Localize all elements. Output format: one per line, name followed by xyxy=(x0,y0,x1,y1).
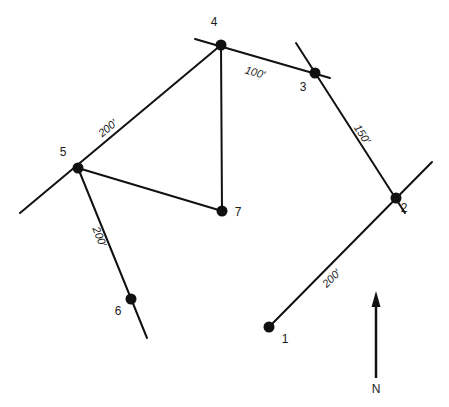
north-arrow: N xyxy=(372,291,381,396)
station-5-label: 5 xyxy=(60,145,67,159)
distance-label: 200′ xyxy=(90,224,109,249)
traverse-lines xyxy=(20,39,432,338)
line-5-4 xyxy=(20,45,221,213)
station-3-point xyxy=(310,68,321,79)
station-1-label: 1 xyxy=(282,332,289,346)
distance-label: 200′ xyxy=(319,266,343,290)
station-6-label: 6 xyxy=(115,304,122,318)
station-4-label: 4 xyxy=(211,15,218,29)
station-3-label: 3 xyxy=(300,80,307,94)
survey-diagram: 1234567 100′150′200′200′200′ N xyxy=(0,0,449,407)
station-1-point xyxy=(264,322,275,333)
arrow-up-icon xyxy=(372,291,381,307)
line-5-6 xyxy=(78,168,147,338)
station-points xyxy=(73,40,402,333)
station-7-point xyxy=(217,206,228,217)
line-4-7 xyxy=(221,45,222,211)
station-2-label: 2 xyxy=(401,201,408,215)
north-label: N xyxy=(372,382,381,396)
distance-label: 200′ xyxy=(95,116,120,140)
station-6-point xyxy=(126,294,137,305)
line-5-7 xyxy=(78,168,222,211)
distance-label: 100′ xyxy=(244,64,268,81)
station-4-point xyxy=(216,40,227,51)
station-7-label: 7 xyxy=(235,205,242,219)
station-5-point xyxy=(73,163,84,174)
line-2-1 xyxy=(269,162,432,327)
station-labels: 1234567 xyxy=(60,15,408,346)
